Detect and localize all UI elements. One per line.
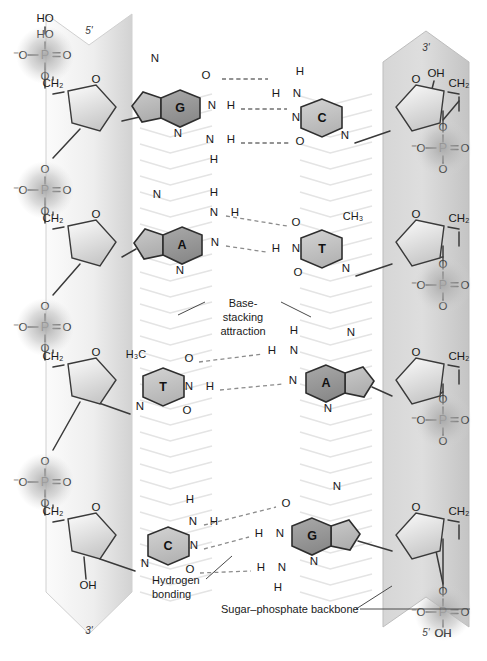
base-adenine-3-letter: A	[321, 376, 330, 390]
g4-h2: H	[257, 561, 265, 573]
base-thymine-2-letter: T	[318, 242, 326, 256]
a2-h6b: H	[231, 206, 239, 218]
left-terminal-oh: OH	[79, 579, 96, 591]
right-sugar-1-ch2: CH₂	[448, 212, 469, 224]
a2-n1: N	[211, 236, 219, 248]
base-stacking-line2: stacking	[223, 311, 263, 323]
c4-n3: N	[190, 539, 198, 551]
base-stacking-line3: attraction	[220, 325, 265, 337]
right-sugar-3-ch2: CH₂	[448, 505, 469, 517]
right-sugar-0-ch2: CH₂	[448, 77, 469, 89]
left-terminal-ho: HO	[36, 12, 53, 24]
g4-h1: H	[255, 527, 263, 539]
a2-h6: H	[210, 186, 218, 198]
hydrogen-bonding-line1: Hydrogen	[152, 574, 200, 586]
g4-h2b: H	[274, 581, 282, 593]
g1-n2: N	[206, 133, 214, 145]
left-sugar-1-ring-o: O	[92, 208, 101, 220]
phosphate-halo	[16, 26, 74, 84]
t2-n1: N	[342, 262, 350, 274]
a3-n6: N	[290, 344, 298, 356]
left-strand-3prime-label: 3'	[85, 625, 94, 636]
a2-n6: N	[210, 206, 218, 218]
g4-n1: N	[276, 527, 284, 539]
a3-h6b: H	[268, 344, 276, 356]
base-cytosine-4-letter: C	[163, 539, 172, 553]
c4-n1: N	[141, 557, 149, 569]
right-sugar-0-ring-o: O	[412, 73, 421, 85]
base-adenine-3-imidazole-ring	[345, 367, 374, 397]
g1-h2b: H	[210, 153, 218, 165]
g1-h2: H	[227, 133, 235, 145]
t3-n3: N	[185, 380, 193, 392]
c1-o2: O	[296, 135, 305, 147]
a3-h6: H	[290, 324, 298, 336]
a2-n7: N	[153, 188, 161, 200]
c1-h4: H	[272, 87, 280, 99]
a3-n3: N	[324, 402, 332, 414]
left-strand-5prime-label: 5'	[85, 25, 94, 36]
g4-n2: N	[278, 561, 286, 573]
g4-o6: O	[282, 497, 291, 509]
base-adenine-2-imidazole-ring	[134, 229, 163, 259]
left-sugar-2-ring-o: O	[92, 346, 101, 358]
right-terminal-oh: OH	[427, 67, 444, 79]
c1-n1: N	[341, 129, 349, 141]
t3-methyl: H₃C	[126, 348, 146, 360]
c1-n4: N	[293, 87, 301, 99]
right-strand-3prime-label: 3'	[422, 42, 431, 53]
t2-h3: H	[272, 242, 280, 254]
a3-n1: N	[289, 374, 297, 386]
t2-o2: O	[294, 266, 303, 278]
right-sugar-2-ch2: CH₂	[448, 350, 469, 362]
left-sugar-3-ring-o: O	[92, 501, 101, 513]
t3-o4: O	[185, 352, 194, 364]
t3-h3: H	[206, 380, 214, 392]
dna-structure-figure: 5' 3' 3' 5' HO⁻OPOOOCH₂O⁻OPOOOCH₂O⁻OPOOO…	[0, 0, 487, 661]
phosphate-halo	[414, 256, 472, 314]
base-cytosine-1-letter: C	[317, 111, 326, 125]
t3-o2: O	[183, 404, 192, 416]
phosphate-halo	[16, 161, 74, 219]
c1-n3: N	[292, 111, 300, 123]
base-thymine-3-letter: T	[159, 380, 167, 394]
a2-n3: N	[176, 264, 184, 276]
c4-h4b: H	[186, 493, 194, 505]
t3-n1: N	[136, 400, 144, 412]
g1-n1: N	[208, 99, 216, 111]
phosphate-halo	[414, 583, 472, 641]
c4-h4: H	[210, 515, 218, 527]
t2-o4: O	[292, 216, 301, 228]
annotation-hydrogen-bonding: Hydrogen bonding	[152, 574, 200, 600]
base-guanine-4-letter: G	[307, 529, 317, 543]
a3-n7: N	[347, 326, 355, 338]
g4-n3: N	[310, 555, 318, 567]
hydrogen-bonding-line2: bonding	[152, 588, 191, 600]
left-sugar-0-ring-o: O	[92, 73, 101, 85]
base-adenine-2-letter: A	[177, 238, 186, 252]
phosphate-halo	[16, 453, 74, 511]
dna-diagram-svg: 5' 3' 3' 5' HO⁻OPOOOCH₂O⁻OPOOOCH₂O⁻OPOOO…	[0, 0, 487, 661]
g1-h1: H	[227, 99, 235, 111]
base-guanine-1-letter: G	[175, 101, 185, 115]
g1-n3: N	[174, 127, 182, 139]
base-stacking-line1: Base-	[229, 297, 258, 309]
right-sugar-2-ring-o: O	[412, 346, 421, 358]
g1-o6: O	[202, 69, 211, 81]
g4-n7: N	[333, 480, 341, 492]
t2-n3: N	[292, 242, 300, 254]
c1-h4b: H	[296, 65, 304, 77]
annotation-base-stacking: Base- stacking attraction	[220, 297, 265, 337]
right-sugar-3-ring-o: O	[412, 501, 421, 513]
right-sugar-1-ring-o: O	[412, 208, 421, 220]
c4-n4: N	[189, 515, 197, 527]
sugar-phosphate-backbone-label: Sugar–phosphate backbone	[221, 603, 359, 615]
g1-n7: N	[151, 52, 159, 64]
phosphate-halo	[16, 298, 74, 356]
t2-methyl: CH₃	[343, 210, 363, 222]
